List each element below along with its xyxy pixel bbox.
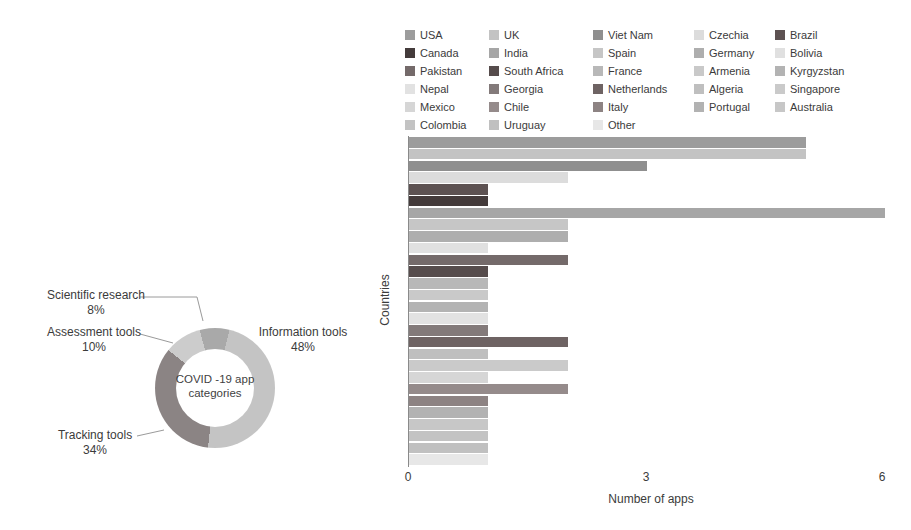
bar-bolivia — [409, 243, 488, 254]
legend-item: Australia — [775, 98, 870, 116]
legend-item: Netherlands — [593, 80, 694, 98]
legend-swatch-icon — [775, 66, 785, 76]
legend-item: Brazil — [775, 26, 870, 44]
legend-swatch-icon — [489, 48, 499, 58]
bar-australia — [409, 419, 488, 430]
bar-nepal — [409, 313, 488, 324]
legend-swatch-icon — [405, 66, 415, 76]
pie-label-text: Assessment tools — [38, 325, 150, 340]
legend-label: Algeria — [709, 83, 743, 96]
legend-swatch-icon — [593, 30, 603, 40]
legend-item: Singapore — [775, 80, 870, 98]
bar-brazil — [409, 184, 488, 195]
legend-item: Other — [593, 116, 694, 134]
bar-india — [409, 208, 885, 219]
bar-italy — [409, 396, 488, 407]
legend-label: Canada — [420, 47, 459, 60]
legend-item: Viet Nam — [593, 26, 694, 44]
legend-label: Kyrgyzstan — [790, 65, 844, 78]
legend-label: Australia — [790, 101, 833, 114]
legend-swatch-icon — [694, 84, 704, 94]
legend-swatch-icon — [775, 30, 785, 40]
legend-swatch-icon — [593, 66, 603, 76]
legend-label: Germany — [709, 47, 754, 60]
pie-label-pct: 34% — [39, 443, 151, 458]
bar-armenia — [409, 290, 488, 301]
legend-item: India — [489, 44, 593, 62]
legend-item: Algeria — [694, 80, 775, 98]
legend-item: Spain — [593, 44, 694, 62]
legend-label: Brazil — [790, 29, 818, 42]
legend-item: Portugal — [694, 98, 775, 116]
legend-swatch-icon — [489, 66, 499, 76]
x-tick-6: 6 — [870, 470, 894, 484]
legend-swatch-icon — [593, 84, 603, 94]
legend-item: Uruguay — [489, 116, 593, 134]
legend-swatch-icon — [405, 30, 415, 40]
legend-item: Bolivia — [775, 44, 870, 62]
bar-georgia — [409, 325, 488, 336]
legend-swatch-icon — [694, 48, 704, 58]
legend-swatch-icon — [775, 84, 785, 94]
legend-swatch-icon — [694, 66, 704, 76]
legend-swatch-icon — [775, 48, 785, 58]
pie-label: Tracking tools34% — [39, 428, 151, 458]
legend-label: France — [608, 65, 642, 78]
legend-item: Mexico — [405, 98, 489, 116]
pie-label-text: Information tools — [247, 325, 359, 340]
legend-swatch-icon — [593, 120, 603, 130]
pie-label-text: Scientific research — [40, 288, 152, 303]
bar-viet-nam — [409, 161, 647, 172]
legend-label: Armenia — [709, 65, 750, 78]
x-axis-label: Number of apps — [571, 492, 731, 506]
legend-swatch-icon — [593, 48, 603, 58]
legend-item: Canada — [405, 44, 489, 62]
legend-label: Pakistan — [420, 65, 462, 78]
bar-netherlands — [409, 337, 568, 348]
legend-item: Nepal — [405, 80, 489, 98]
legend-item: Italy — [593, 98, 694, 116]
legend-label: Chile — [504, 101, 529, 114]
legend-item: Czechia — [694, 26, 775, 44]
x-tick-3: 3 — [634, 470, 658, 484]
legend-label: Uruguay — [504, 119, 546, 132]
legend-label: Portugal — [709, 101, 750, 114]
legend-swatch-icon — [489, 120, 499, 130]
donut-center-label: COVID -19 app categories — [155, 373, 275, 400]
legend-swatch-icon — [405, 120, 415, 130]
legend-swatch-icon — [694, 102, 704, 112]
legend-label: Nepal — [420, 83, 449, 96]
legend-swatch-icon — [593, 102, 603, 112]
bar-chart-legend: USAUKViet NamCzechiaBrazilCanadaIndiaSpa… — [405, 26, 870, 134]
legend-label: Other — [608, 119, 636, 132]
legend-label: Spain — [608, 47, 636, 60]
legend-item: UK — [489, 26, 593, 44]
pie-label-text: Tracking tools — [39, 428, 151, 443]
legend-label: Italy — [608, 101, 628, 114]
legend-label: Viet Nam — [608, 29, 653, 42]
pie-label-pct: 48% — [247, 340, 359, 355]
bar-uk — [409, 149, 806, 160]
legend-swatch-icon — [489, 30, 499, 40]
legend-swatch-icon — [489, 84, 499, 94]
legend-swatch-icon — [405, 102, 415, 112]
bar-spain — [409, 219, 568, 230]
legend-label: Singapore — [790, 83, 840, 96]
legend-label: Georgia — [504, 83, 543, 96]
bar-chile — [409, 384, 568, 395]
bar-france — [409, 278, 488, 289]
bar-usa — [409, 137, 806, 148]
pie-label: Assessment tools10% — [38, 325, 150, 355]
legend-label: South Africa — [504, 65, 563, 78]
x-tick-0: 0 — [396, 470, 420, 484]
legend-swatch-icon — [694, 30, 704, 40]
legend-swatch-icon — [405, 84, 415, 94]
legend-item: Chile — [489, 98, 593, 116]
pie-label-pct: 8% — [40, 303, 152, 318]
donut-center-line1: COVID -19 app — [155, 373, 275, 387]
figure-canvas: COVID -19 app categories Information too… — [0, 0, 911, 530]
legend-swatch-icon — [489, 102, 499, 112]
bar-czechia — [409, 172, 568, 183]
legend-item: USA — [405, 26, 489, 44]
bar-south-africa — [409, 266, 488, 277]
